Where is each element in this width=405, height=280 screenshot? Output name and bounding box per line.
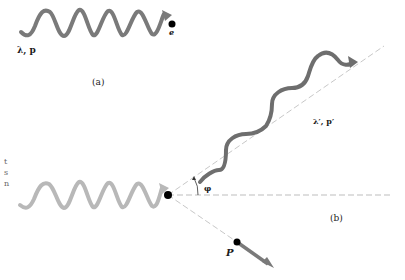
incident-photon-wave-b (20, 182, 162, 208)
angle-phi-label: φ (204, 183, 211, 193)
scattered-direction-dashed-line (168, 46, 384, 195)
caption-b: (b) (330, 213, 343, 223)
edge-text-fragment: n (4, 179, 9, 188)
recoil-direction-dashed-line (168, 195, 237, 242)
edge-text-fragment: s (4, 168, 8, 177)
electron-label-a: e (169, 27, 174, 37)
electron-dot-b (164, 191, 172, 199)
edge-text-fragment: t (4, 157, 7, 166)
photon-label-a: λ, p (17, 45, 36, 56)
caption-a: (a) (92, 77, 104, 87)
recoil-electron-dot (234, 239, 241, 246)
incident-photon-wave-a (21, 10, 164, 36)
recoil-electron-label: P (225, 247, 234, 258)
scattered-photon-label: λ′, p′ (313, 116, 334, 126)
panel-b: λ′, p′ φ P (b) (20, 46, 392, 268)
compton-scattering-diagram: e λ, p (a) λ′, p′ φ P (b) (0, 0, 405, 280)
panel-a: e λ, p (a) (17, 10, 176, 87)
recoil-arrowhead-icon (262, 257, 274, 268)
angle-arc (194, 178, 198, 195)
